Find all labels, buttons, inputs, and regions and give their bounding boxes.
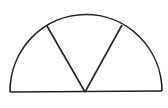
- semicircle-arc: [10, 14, 162, 92]
- semicircle-diagram: [0, 0, 168, 108]
- right-spoke-line: [85, 25, 122, 92]
- left-spoke-line: [47, 26, 85, 92]
